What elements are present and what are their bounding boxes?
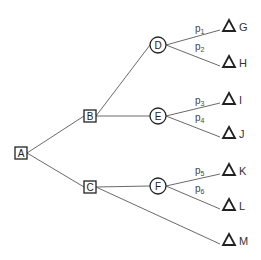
probability-label-p4: p4 <box>195 112 205 124</box>
terminal-node-l: L <box>223 199 245 212</box>
nodes-layer: ABCDEFGHIJKLM <box>15 20 248 247</box>
terminal-label: J <box>239 128 245 140</box>
edge-c-f <box>96 186 150 187</box>
chance-node-f: F <box>150 178 166 194</box>
decision-tree-diagram: p1p2p3p4p5p6 ABCDEFGHIJKLM <box>0 0 261 260</box>
probability-label-p2: p2 <box>195 41 205 53</box>
decision-node-b: B <box>84 110 96 122</box>
terminal-node-i: I <box>223 93 242 106</box>
triangle-icon <box>223 164 235 175</box>
edge-d-h <box>166 45 220 66</box>
edge-f-l <box>166 186 220 209</box>
terminal-node-h: H <box>223 56 247 69</box>
terminal-label: L <box>239 200 245 212</box>
terminal-label: G <box>239 21 248 33</box>
terminal-node-k: K <box>223 164 247 177</box>
triangle-icon <box>223 234 235 245</box>
probability-label-p1: p1 <box>195 23 205 35</box>
node-label: F <box>155 181 161 192</box>
edge-b-d <box>96 45 150 116</box>
triangle-icon <box>223 199 235 210</box>
node-label: C <box>86 182 93 193</box>
decision-node-a: A <box>15 147 27 159</box>
node-label: E <box>155 111 162 122</box>
terminal-label: I <box>239 94 242 106</box>
probability-subscript: 2 <box>201 46 205 53</box>
edge-a-b <box>27 116 84 153</box>
probability-label-p5: p5 <box>195 165 205 177</box>
edge-d-g <box>166 30 220 45</box>
terminal-node-m: M <box>223 234 248 247</box>
terminal-label: K <box>239 165 247 177</box>
node-label: B <box>87 111 94 122</box>
edge-c-m <box>96 187 220 244</box>
probability-label-p3: p3 <box>195 95 205 107</box>
probability-subscript: 6 <box>201 188 205 195</box>
probability-label-p6: p6 <box>195 183 205 195</box>
triangle-icon <box>223 127 235 138</box>
terminal-label: M <box>239 235 248 247</box>
decision-node-c: C <box>84 181 96 193</box>
triangle-icon <box>223 56 235 67</box>
terminal-node-g: G <box>223 20 248 33</box>
edge-a-c <box>27 153 84 187</box>
probability-subscript: 5 <box>201 170 205 177</box>
probability-subscript: 3 <box>201 100 205 107</box>
probability-subscript: 1 <box>201 28 205 35</box>
probability-subscript: 4 <box>201 117 205 124</box>
terminal-node-j: J <box>223 127 245 140</box>
node-label: A <box>18 148 25 159</box>
chance-node-e: E <box>150 108 166 124</box>
triangle-icon <box>223 20 235 31</box>
node-label: D <box>154 40 161 51</box>
edge-e-j <box>166 116 220 137</box>
chance-node-d: D <box>150 37 166 53</box>
terminal-label: H <box>239 57 247 69</box>
triangle-icon <box>223 93 235 104</box>
edge-f-k <box>166 174 220 186</box>
edge-e-i <box>166 103 220 116</box>
edges-layer <box>27 30 220 244</box>
